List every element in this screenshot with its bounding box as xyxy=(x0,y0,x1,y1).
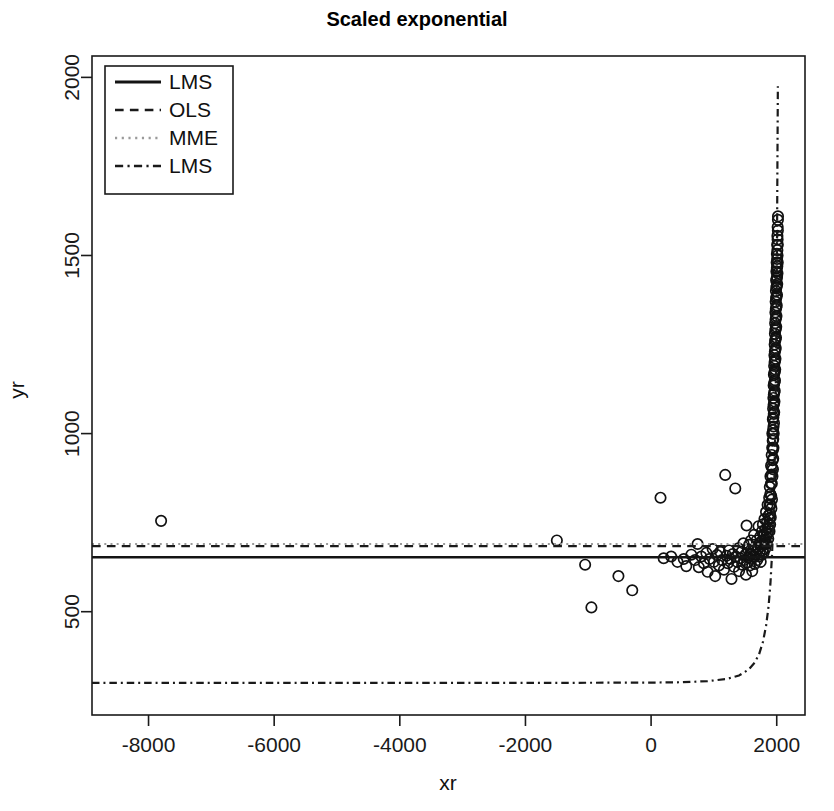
x-tick-label: -8000 xyxy=(122,733,176,756)
plot-container: Scaled exponential -8000-6000-4000-20000… xyxy=(0,0,834,811)
y-axis-title: yr xyxy=(5,381,28,399)
data-points-group xyxy=(156,211,783,613)
y-tick-label: 2000 xyxy=(60,54,83,101)
x-tick-label: 0 xyxy=(645,733,657,756)
data-point xyxy=(156,516,166,526)
legend-label-lms-0: LMS xyxy=(169,70,212,93)
data-point xyxy=(730,483,740,493)
data-point xyxy=(613,571,623,581)
data-point xyxy=(655,493,665,503)
x-tick-label: -2000 xyxy=(499,733,553,756)
y-tick-label: 500 xyxy=(60,594,83,629)
data-point xyxy=(627,585,637,595)
legend-label-mme-2: MME xyxy=(169,126,218,149)
legend-label-lms-3: LMS xyxy=(169,154,212,177)
x-tick-label: -4000 xyxy=(373,733,427,756)
x-axis-title: xr xyxy=(439,771,457,794)
y-tick-label: 1500 xyxy=(60,232,83,279)
data-point xyxy=(580,559,590,569)
plot-title-group: Scaled exponential xyxy=(326,8,507,30)
data-point xyxy=(720,470,730,480)
y-tick-label: 1000 xyxy=(60,410,83,457)
scatter-plot-figure: Scaled exponential -8000-6000-4000-20000… xyxy=(0,0,834,811)
x-tick-label: 2000 xyxy=(753,733,800,756)
data-point xyxy=(741,520,751,530)
legend-label-ols-1: OLS xyxy=(169,98,211,121)
legend[interactable]: LMSOLSMMELMS xyxy=(105,66,233,194)
page-title: Scaled exponential xyxy=(326,8,507,30)
data-point xyxy=(586,602,596,612)
x-tick-label: -6000 xyxy=(247,733,301,756)
